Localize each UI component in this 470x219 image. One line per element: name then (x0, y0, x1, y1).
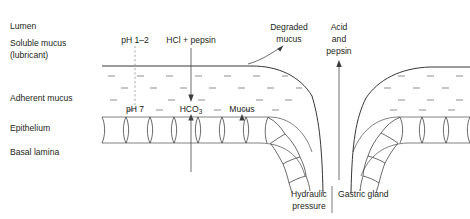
label-mucus: Mucus (229, 104, 254, 114)
soluble-mucus-surface-right (366, 67, 470, 98)
label-acid-pepsin-line3: pepsin (326, 46, 352, 56)
row-label-basal-lamina: Basal lamina (10, 147, 59, 157)
label-gastric-gland: Gastric gland (338, 189, 389, 199)
label-hydraulic-pressure-line2: pressure (292, 201, 326, 211)
gland-pit-wall-right (351, 98, 366, 193)
mucus-hatch-marks (108, 76, 463, 110)
label-acid-pepsin-line2: and (332, 34, 347, 44)
gastric-mucosal-barrier-diagram: Lumen Soluble mucus (lubricant) Adherent… (0, 0, 470, 219)
epithelial-cell-dividers-left (102, 117, 268, 143)
label-bicarbonate: HCO3 (180, 104, 203, 115)
arrow-degraded-mucus-curve (248, 47, 281, 64)
arrow-degraded-mucus-head (277, 45, 283, 51)
basal-lamina-line-left (102, 143, 305, 176)
label-hydraulic-pressure-line1: Hydraulic (291, 189, 328, 199)
label-degraded-mucus-line1: Degraded (270, 22, 308, 32)
epithelial-cells-pit-left (268, 117, 310, 193)
row-label-soluble-mucus-sub: (lubricant) (10, 50, 48, 60)
figure-canvas: Lumen Soluble mucus (lubricant) Adherent… (0, 0, 470, 219)
row-label-epithelium: Epithelium (10, 123, 50, 133)
gland-pit-wall-left (312, 96, 323, 193)
row-label-soluble-mucus: Soluble mucus (10, 38, 66, 48)
label-ph-lumen: pH 1–2 (121, 35, 149, 45)
label-acid-pepsin-line1: Acid (331, 22, 348, 32)
label-hcl-pepsin: HCl + pepsin (166, 35, 216, 45)
label-degraded-mucus-line2: mucus (276, 34, 301, 44)
epithelial-cell-dividers-right (400, 117, 470, 143)
arrow-acid-pepsin-head (336, 60, 341, 67)
soluble-mucus-surface-left (102, 66, 312, 96)
row-label-adherent-mucus: Adherent mucus (10, 93, 73, 103)
label-ph-epithelium: pH 7 (126, 104, 144, 114)
epithelium-apical-boundary-right (353, 117, 470, 152)
arrow-hcl-pepsin-head (188, 95, 193, 103)
row-label-lumen: Lumen (10, 21, 36, 31)
epithelial-cells-pit-right (360, 117, 400, 193)
